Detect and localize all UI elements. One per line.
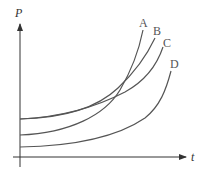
curve-c-label: C xyxy=(163,36,171,50)
y-axis-label: P xyxy=(14,6,23,20)
chart: P t A B C D xyxy=(0,0,204,174)
curve-d-label: D xyxy=(170,57,179,71)
curve-c xyxy=(20,47,163,119)
curve-a xyxy=(20,30,143,135)
curve-d xyxy=(20,71,171,147)
x-axis-label: t xyxy=(191,150,195,164)
curve-b-label: B xyxy=(153,24,161,38)
curve-a-label: A xyxy=(139,16,148,30)
chart-svg: P t A B C D xyxy=(0,0,204,174)
